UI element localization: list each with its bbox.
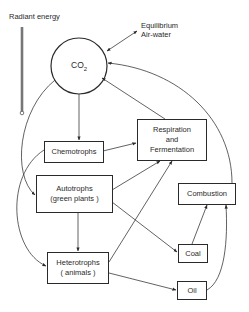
and-label: and bbox=[166, 135, 179, 145]
node-autotrophs: Autotrophs (green plants ) bbox=[36, 175, 113, 213]
node-oil: Oil bbox=[177, 281, 207, 300]
co2-label: CO2 bbox=[71, 60, 87, 72]
chemotrophs-label: Chemotrophs bbox=[51, 147, 96, 157]
equilibrium-label: Equilibrium Air-water bbox=[141, 21, 178, 39]
co2-subscript: 2 bbox=[84, 66, 87, 72]
node-combustion: Combustion bbox=[178, 183, 236, 205]
node-chemotrophs: Chemotrophs bbox=[44, 141, 104, 163]
equilibrium-line2: Air-water bbox=[141, 30, 178, 39]
autotrophs-label: Autotrophs bbox=[56, 184, 92, 194]
carbon-cycle-connections bbox=[0, 0, 249, 312]
respiration-label: Respiration bbox=[153, 125, 191, 135]
oil-label: Oil bbox=[187, 286, 196, 296]
coal-label: Coal bbox=[185, 249, 200, 259]
co2-base: CO bbox=[71, 60, 84, 70]
combustion-label: Combustion bbox=[187, 189, 227, 199]
fermentation-label: Fermentation bbox=[150, 145, 194, 155]
radiant-energy-label: Radiant energy bbox=[9, 12, 60, 21]
node-coal: Coal bbox=[178, 244, 208, 263]
node-heterotrophs: Heterotrophs ( animals ) bbox=[47, 252, 109, 284]
autotrophs-sublabel: (green plants ) bbox=[50, 194, 98, 204]
heterotrophs-label: Heterotrophs bbox=[56, 258, 99, 268]
equilibrium-line1: Equilibrium bbox=[141, 21, 178, 30]
node-respiration-fermentation: Respiration and Fermentation bbox=[137, 119, 207, 161]
heterotrophs-sublabel: ( animals ) bbox=[60, 268, 95, 278]
